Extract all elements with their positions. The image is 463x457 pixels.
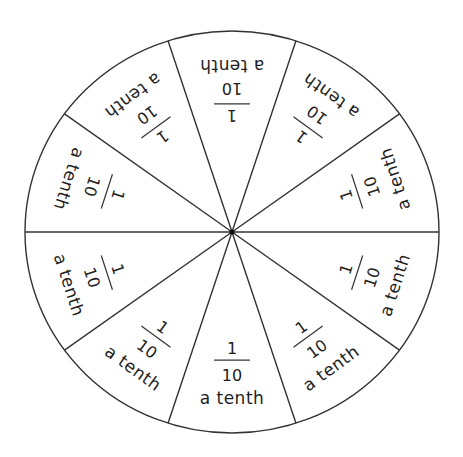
fraction-numerator: 1 — [153, 126, 172, 147]
fraction-denominator: 10 — [80, 174, 104, 199]
fraction-word: a tenth — [50, 145, 89, 213]
fraction-denominator: 10 — [360, 265, 384, 290]
segment-divider — [232, 232, 399, 350]
fraction-numerator: 1 — [292, 126, 311, 147]
segment-label: 110a tenth — [327, 145, 414, 228]
segment-divider — [65, 114, 232, 232]
fraction-wheel: 110a tenth110a tenth110a tenth110a tenth… — [0, 0, 463, 457]
segment-label: 110a tenth — [200, 56, 265, 125]
fraction-word: a tenth — [50, 251, 89, 319]
fraction-numerator: 1 — [107, 187, 128, 203]
fraction-numerator: 1 — [153, 317, 172, 338]
fraction-numerator: 1 — [336, 261, 357, 277]
segment-label: 110a tenth — [50, 145, 137, 228]
fraction-word: a tenth — [375, 251, 414, 319]
fraction-denominator: 10 — [222, 366, 242, 385]
fraction-denominator: 10 — [80, 265, 104, 290]
segment-label: 110a tenth — [50, 235, 137, 318]
center-dot — [230, 230, 235, 235]
fraction-word: a tenth — [375, 145, 414, 213]
fraction-word: a tenth — [200, 56, 265, 76]
segment-divider — [232, 114, 399, 232]
fraction-numerator: 1 — [107, 261, 128, 277]
fraction-numerator: 1 — [336, 187, 357, 203]
fraction-numerator: 1 — [292, 317, 311, 338]
fraction-denominator: 10 — [360, 174, 384, 199]
fraction-numerator: 1 — [227, 106, 237, 125]
fraction-numerator: 1 — [227, 339, 237, 358]
segment-label: 110a tenth — [200, 339, 265, 408]
fraction-word: a tenth — [200, 388, 265, 408]
segment-divider — [65, 232, 232, 350]
fraction-denominator: 10 — [222, 79, 242, 98]
segment-label: 110a tenth — [327, 235, 414, 318]
